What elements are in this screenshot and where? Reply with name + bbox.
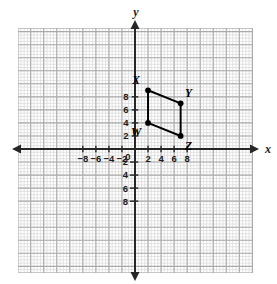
axis-tick-label: 8 bbox=[123, 196, 128, 207]
axis-tick-label: 4 bbox=[158, 153, 164, 164]
axis-tick-label: −4 bbox=[103, 153, 115, 164]
axes-lines bbox=[12, 20, 259, 281]
vertex-label-w: W bbox=[131, 126, 142, 138]
coordinate-plane-figure: −8−6−4−20246886422468 xy WXYZ bbox=[0, 0, 277, 284]
axis-tick-label: 4 bbox=[123, 169, 129, 180]
axis-tick-label: 8 bbox=[185, 153, 190, 164]
x-axis-label: x bbox=[264, 142, 271, 156]
vertex-point-x bbox=[145, 87, 151, 93]
y-axis-label: y bbox=[131, 5, 139, 19]
vertex-point-y bbox=[178, 100, 184, 106]
vertex-label-x: X bbox=[131, 74, 140, 86]
vertex-point-z bbox=[178, 133, 184, 139]
axis-tick-label: 2 bbox=[123, 130, 128, 141]
axis-tick-label: 8 bbox=[123, 91, 128, 102]
axis-tick-label: 4 bbox=[123, 117, 129, 128]
coordinate-plane-svg: −8−6−4−20246886422468 xy WXYZ bbox=[0, 0, 277, 284]
axis-tick-label: 6 bbox=[123, 104, 128, 115]
vertex-label-z: Z bbox=[184, 140, 192, 152]
axis-tick-label: 2 bbox=[145, 153, 150, 164]
axis-tick-label: 6 bbox=[171, 153, 176, 164]
axis-tick-label: 6 bbox=[123, 183, 128, 194]
vertex-label-y: Y bbox=[185, 87, 193, 99]
axis-tick-label: 2 bbox=[123, 156, 128, 167]
axis-tick-label: −8 bbox=[77, 153, 88, 164]
vertex-point-w bbox=[145, 120, 151, 126]
axis-tick-label: −6 bbox=[90, 153, 101, 164]
